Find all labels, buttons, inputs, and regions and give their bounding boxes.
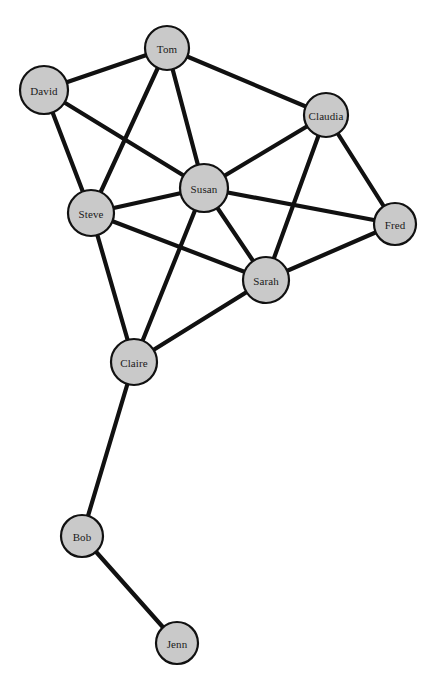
node-circle-claire[interactable] [111,339,157,385]
graph-edge-steve-sarah[interactable] [91,213,266,280]
graph-node-tom[interactable]: Tom [145,26,189,70]
node-circle-bob[interactable] [61,515,103,557]
network-graph-svg: TomDavidClaudiaSusanSteveFredSarahClaire… [0,0,433,680]
node-circle-claudia[interactable] [304,93,348,137]
graph-edge-susan-claire[interactable] [134,188,204,362]
graph-node-bob[interactable]: Bob [61,515,103,557]
graph-node-susan[interactable]: Susan [180,164,228,212]
graph-edge-claudia-sarah[interactable] [266,115,326,280]
graph-edge-tom-claudia[interactable] [167,48,326,115]
edges-layer [44,48,395,643]
node-circle-david[interactable] [20,66,68,114]
node-circle-sarah[interactable] [243,257,289,303]
graph-node-david[interactable]: David [20,66,68,114]
network-graph-canvas: TomDavidClaudiaSusanSteveFredSarahClaire… [0,0,433,680]
graph-node-fred[interactable]: Fred [374,203,416,245]
graph-node-claudia[interactable]: Claudia [304,93,348,137]
graph-node-jenn[interactable]: Jenn [156,622,198,664]
nodes-layer: TomDavidClaudiaSusanSteveFredSarahClaire… [20,26,416,664]
graph-node-sarah[interactable]: Sarah [243,257,289,303]
graph-edge-claire-bob[interactable] [82,362,134,536]
node-circle-steve[interactable] [68,190,114,236]
graph-edge-tom-steve[interactable] [91,48,167,213]
node-circle-tom[interactable] [145,26,189,70]
node-circle-jenn[interactable] [156,622,198,664]
graph-node-claire[interactable]: Claire [111,339,157,385]
graph-node-steve[interactable]: Steve [68,190,114,236]
node-circle-fred[interactable] [374,203,416,245]
node-circle-susan[interactable] [180,164,228,212]
